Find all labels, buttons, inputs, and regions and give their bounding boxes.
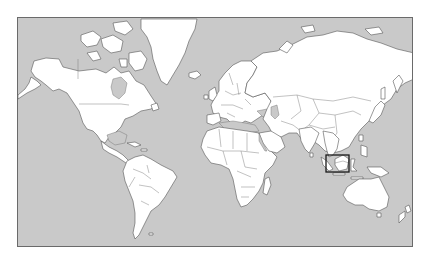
world-map	[18, 18, 413, 247]
highlight-label: Malaysia (Peninsular Malaysia & northern…	[0, 0, 1, 1]
world-map-frame	[17, 17, 413, 247]
